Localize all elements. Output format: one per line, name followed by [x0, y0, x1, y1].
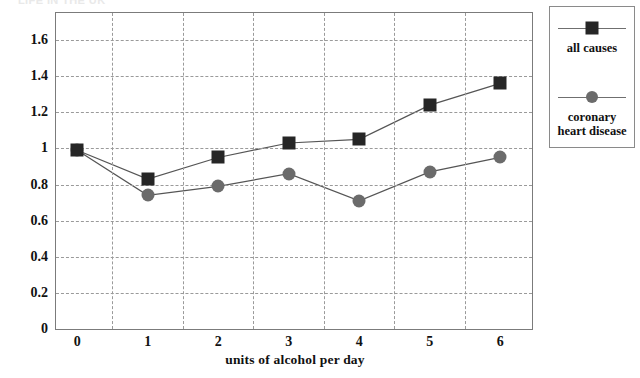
- series-line-all-causes: [77, 83, 500, 179]
- y-axis-tick-label: 0.4: [8, 249, 48, 265]
- data-point-marker: [282, 167, 295, 180]
- vertical-gridline: [112, 13, 113, 329]
- data-point-marker: [494, 151, 507, 164]
- legend-swatch-square: [556, 21, 628, 35]
- vertical-gridline: [465, 13, 466, 329]
- data-point-marker: [423, 165, 436, 178]
- vertical-gridline: [394, 13, 395, 329]
- horizontal-gridline: [56, 76, 532, 77]
- x-axis-tick-label: 2: [198, 334, 238, 350]
- x-axis-tick-label: 3: [269, 334, 309, 350]
- horizontal-gridline: [56, 257, 532, 258]
- data-point-marker: [423, 99, 436, 112]
- vertical-gridline: [253, 13, 254, 329]
- data-point-marker: [141, 189, 154, 202]
- data-point-marker: [494, 77, 507, 90]
- y-axis-tick-label: 1.2: [8, 104, 48, 120]
- chart-plot-area: [55, 12, 533, 330]
- circle-marker-icon: [586, 91, 598, 103]
- y-axis-tick-label: 0.6: [8, 213, 48, 229]
- y-axis-tick-label: 0.8: [8, 177, 48, 193]
- legend-swatch-circle: [556, 90, 628, 104]
- legend-entry-coronary-heart-disease: coronary heart disease: [550, 90, 634, 139]
- data-point-marker: [141, 173, 154, 186]
- square-marker-icon: [586, 22, 599, 35]
- legend-label-line-2: heart disease: [550, 124, 634, 138]
- chart-plot-inner: [56, 13, 532, 329]
- x-axis-tick-label: 6: [480, 334, 520, 350]
- horizontal-gridline: [56, 185, 532, 186]
- data-point-marker: [71, 144, 84, 157]
- data-point-marker: [212, 180, 225, 193]
- data-point-marker: [212, 151, 225, 164]
- x-axis-tick-label: 4: [339, 334, 379, 350]
- x-axis-tick-label: 0: [57, 334, 97, 350]
- data-point-marker: [353, 133, 366, 146]
- data-point-marker: [353, 194, 366, 207]
- horizontal-gridline: [56, 221, 532, 222]
- legend-label-line-1: coronary: [550, 110, 634, 124]
- vertical-gridline: [183, 13, 184, 329]
- data-point-marker: [282, 137, 295, 150]
- y-axis-tick-label: 1.6: [8, 32, 48, 48]
- legend-label-coronary-heart-disease: coronary heart disease: [550, 110, 634, 139]
- y-axis-tick-label: 1.4: [8, 68, 48, 84]
- x-axis-tick-label: 1: [128, 334, 168, 350]
- legend-entry-all-causes: all causes: [550, 21, 634, 55]
- chart-legend: all causes coronary heart disease: [549, 6, 635, 148]
- horizontal-gridline: [56, 40, 532, 41]
- horizontal-gridline: [56, 112, 532, 113]
- legend-label-all-causes: all causes: [550, 41, 634, 55]
- x-axis-tick-label: 5: [410, 334, 450, 350]
- x-axis-title: units of alcohol per day: [0, 352, 590, 368]
- clipped-heading: LIFE IN THE UK: [18, 0, 238, 4]
- y-axis-tick-label: 1: [8, 140, 48, 156]
- y-axis-tick-label: 0.2: [8, 285, 48, 301]
- vertical-gridline: [324, 13, 325, 329]
- y-axis-tick-label: 0: [8, 321, 48, 337]
- horizontal-gridline: [56, 293, 532, 294]
